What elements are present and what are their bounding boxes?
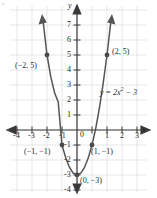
y-tick-label-7: 7	[67, 21, 71, 29]
y-tick-label-neg4: -4	[64, 186, 71, 194]
y-tick-label-2: 2	[67, 96, 71, 104]
equation-label: y = 2x2 − 3	[100, 89, 137, 97]
x-tick-label-3: 3	[135, 132, 139, 140]
equation-constant: 3	[133, 88, 137, 97]
y-tick-label-neg3: -3	[64, 171, 71, 179]
graph-canvas	[0, 0, 157, 198]
x-tick-label-2: 2	[120, 132, 124, 140]
point-marker-2-5	[105, 53, 110, 58]
point-label-2-5: (2, 5)	[112, 48, 129, 56]
origin-label: 0	[80, 131, 84, 139]
x-tick-label-1: 1	[105, 132, 109, 140]
x-tick-label-neg2: -2	[43, 132, 50, 140]
y-tick-label-neg2: -2	[64, 156, 71, 164]
point-label-0-neg3: (0, −3)	[80, 177, 102, 185]
x-tick-label-neg4: -4	[13, 132, 20, 140]
grid-lines	[10, 6, 147, 192]
point-label-1-neg1: (1, −1)	[91, 148, 113, 156]
y-tick-label-1: 1	[67, 111, 71, 119]
y-tick-label-3: 3	[67, 81, 71, 89]
parabola-figure: • x y 0 -4 -3 -2 -1 1 2 3 7 6 5 4 3 2 1 …	[0, 0, 157, 198]
y-tick-label-5: 5	[67, 51, 71, 59]
x-axis-label: x	[142, 126, 146, 134]
point-marker-neg2-5	[45, 53, 50, 58]
x-tick-label-neg3: -3	[28, 132, 35, 140]
point-label-neg2-5: (−2, 5)	[15, 62, 37, 70]
corner-mark: •	[2, 1, 4, 8]
y-axis	[73, 5, 81, 193]
y-tick-label-4: 4	[67, 66, 71, 74]
y-axis-label: y	[68, 2, 72, 10]
point-label-neg1-neg1: (−1, −1)	[24, 148, 50, 156]
x-tick-label-neg1: -1	[59, 132, 66, 140]
equation-minus: −	[124, 88, 133, 97]
y-tick-label-6: 6	[67, 36, 71, 44]
y-tick-label-neg1: -1	[64, 141, 71, 149]
point-marker-0-neg3	[75, 173, 80, 178]
equation-equals: =	[104, 88, 113, 97]
